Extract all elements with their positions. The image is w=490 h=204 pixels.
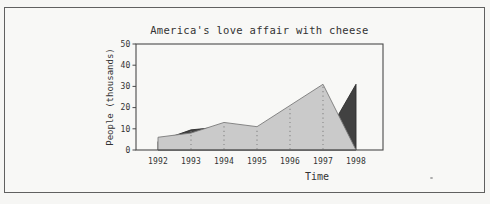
x-tick-label: 1995: [247, 157, 267, 166]
x-tick-label: 1997: [313, 157, 333, 166]
y-tick-label: 0: [125, 146, 130, 155]
x-tick-label: 1998: [346, 157, 366, 166]
y-tick-label: 10: [120, 125, 130, 134]
y-tick-label: 20: [120, 103, 130, 112]
scanned-figure-page: America's love affair with cheese People…: [0, 0, 490, 204]
x-axis-label: Time: [305, 171, 329, 182]
y-tick-label: 40: [120, 61, 130, 70]
y-tick-label: 50: [120, 40, 130, 49]
cheese-chart: 010203040501992199319941995199619971998: [0, 0, 490, 204]
y-tick-label: 30: [120, 82, 130, 91]
x-tick-label: 1996: [280, 157, 300, 166]
scan-speck: [430, 177, 433, 179]
x-tick-label: 1992: [148, 157, 168, 166]
x-tick-label: 1994: [214, 157, 234, 166]
x-tick-label: 1993: [181, 157, 201, 166]
